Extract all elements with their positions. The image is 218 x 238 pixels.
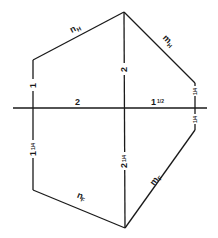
svg-text:2: 2 (119, 67, 129, 72)
label-nF: n F (75, 190, 87, 204)
dim-horizontal-left: 2 (75, 97, 80, 107)
svg-text:1: 1 (28, 83, 38, 88)
svg-text:1/4: 1/4 (30, 143, 36, 150)
edge-top-left (33, 12, 124, 60)
label-mH: m H (160, 33, 177, 50)
frame-diagram: n H m H n F m F 1 1 1/4 2 2 1/4 2 1 1/2 … (0, 0, 218, 238)
edge-top-right (124, 12, 195, 83)
svg-text:1/4: 1/4 (192, 88, 198, 95)
label-nH: n H (68, 21, 82, 36)
dim-left-upper: 1 (28, 83, 38, 88)
svg-text:2: 2 (119, 163, 129, 168)
dim-right-lower: 1/4 (192, 116, 198, 123)
dim-right-upper: 1/4 (192, 88, 198, 95)
dim-center-upper: 2 (119, 67, 129, 72)
dim-horizontal-right: 1 1/2 (151, 97, 164, 107)
svg-text:1/4: 1/4 (192, 116, 198, 123)
center-vertical (124, 12, 125, 228)
svg-text:1/4: 1/4 (121, 155, 127, 162)
svg-text:1/2: 1/2 (157, 98, 164, 104)
svg-text:1: 1 (28, 151, 38, 156)
label-mF: m F (148, 171, 164, 187)
svg-text:1: 1 (151, 97, 156, 107)
svg-text:F: F (80, 196, 86, 203)
